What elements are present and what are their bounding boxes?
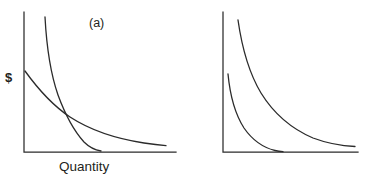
chart-a-steep-curve [45, 17, 101, 151]
chart-a-flat-curve [25, 71, 166, 146]
chart-b-upper-curve [238, 20, 355, 147]
chart-panel-a: $ Quantity (a) [0, 0, 191, 182]
figure-root: $ Quantity (a) $ Quantity (b) [0, 0, 382, 182]
chart-a-x-axis-label: Quantity [59, 160, 109, 174]
chart-panel-b: $ Quantity (b) [191, 0, 382, 182]
chart-a-panel-tag: (a) [89, 17, 104, 30]
chart-a-y-axis-label: $ [5, 71, 12, 84]
chart-a-axes [24, 12, 176, 152]
chart-b-canvas [191, 0, 382, 182]
chart-b-axes [223, 12, 358, 152]
chart-b-lower-curve [228, 74, 283, 152]
